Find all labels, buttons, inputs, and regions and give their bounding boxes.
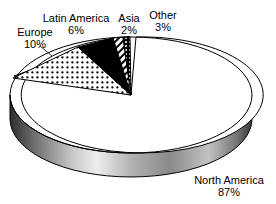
- pie-label-asia: Asia 2%: [112, 12, 146, 36]
- pie-label-other: Other 3%: [146, 9, 180, 33]
- pie-chart: Europe 10% Latin America 6% Asia 2% Othe…: [0, 0, 276, 204]
- pie-slice-north-america: [21, 37, 263, 153]
- pie-label-latin-america-name: Latin America: [43, 12, 110, 24]
- pie-label-asia-name: Asia: [118, 12, 139, 24]
- pie-label-latin-america: Latin America 6%: [38, 12, 114, 36]
- pie-label-north-america: North America 87%: [186, 174, 272, 198]
- pie-top-face: [10, 37, 263, 154]
- pie-label-latin-america-value: 6%: [38, 24, 114, 36]
- pie-label-other-value: 3%: [146, 21, 180, 33]
- pie-label-asia-value: 2%: [112, 24, 146, 36]
- pie-label-north-america-name: North America: [194, 174, 264, 186]
- pie-label-north-america-value: 87%: [186, 186, 272, 198]
- pie-label-europe-value: 10%: [8, 38, 62, 50]
- pie-label-other-name: Other: [149, 9, 177, 21]
